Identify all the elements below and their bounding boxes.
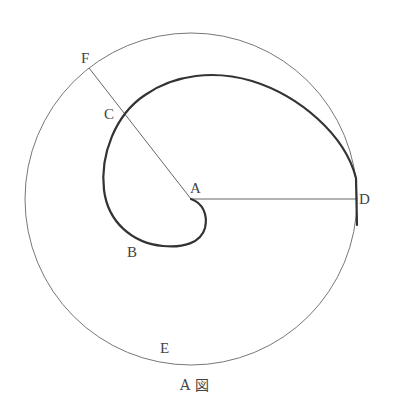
label-B: B	[127, 245, 137, 260]
spiral-curve	[103, 75, 357, 246]
diagram-canvas	[0, 0, 394, 410]
label-C: C	[104, 107, 114, 122]
label-E: E	[160, 341, 169, 356]
label-F: F	[81, 51, 89, 66]
label-A: A	[190, 181, 201, 196]
label-D: D	[359, 192, 370, 207]
figure-caption: A 図	[180, 378, 209, 392]
